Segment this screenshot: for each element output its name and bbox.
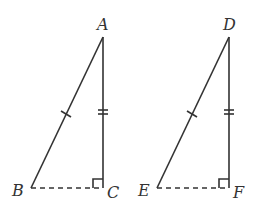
right-angle-mark-f [219, 179, 229, 188]
triangle-abc [31, 37, 108, 188]
triangle-def [157, 37, 234, 188]
right-angle-mark-c [93, 179, 103, 188]
vertex-label-e: E [137, 181, 150, 200]
vertex-label-d: D [222, 15, 236, 34]
congruent-triangles-diagram: A B C D E F [0, 0, 261, 208]
vertex-label-f: F [232, 183, 245, 202]
vertex-label-a: A [95, 15, 109, 34]
side-de [157, 37, 229, 188]
side-ab [31, 37, 103, 188]
vertex-label-c: C [107, 183, 119, 202]
vertex-label-b: B [11, 181, 24, 200]
